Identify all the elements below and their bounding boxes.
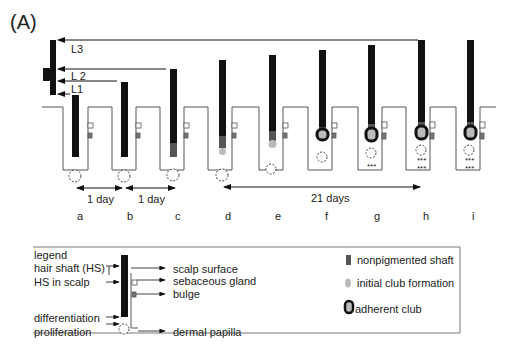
dermal-papillae [69, 145, 474, 182]
stage-label-e: e [275, 210, 281, 222]
key-adherent-club: adherent club [355, 303, 422, 315]
svg-text:***: *** [417, 164, 426, 173]
interval-label: 1 day [87, 193, 114, 205]
stage-label-a: a [77, 210, 83, 222]
legend-left-label: proliferation [34, 326, 91, 338]
interval-label: 1 day [138, 193, 165, 205]
stage-label-f: f [325, 210, 328, 222]
legend-left-label: differentiation [34, 312, 100, 324]
svg-text:***: *** [465, 164, 474, 173]
legend-right-label: dermal papilla [173, 326, 241, 338]
legend-left-label: hair shaft (HS) [34, 262, 105, 274]
svg-text:***: *** [367, 162, 376, 171]
marker-L1: L1 [71, 83, 83, 95]
legend-title: legend [34, 249, 67, 261]
stage-label-h: h [423, 210, 429, 222]
length-arrows [58, 40, 418, 94]
interval-arrows [77, 187, 420, 188]
legend-right-label: bulge [173, 288, 200, 300]
marker-L2: L 2 [71, 70, 86, 82]
legend-left-label: HS in scalp [34, 276, 90, 288]
adherent-clubs [317, 126, 476, 141]
legend-right-label: sebaceous gland [173, 275, 256, 287]
stage-label-i: i [472, 210, 474, 222]
stage-label-d: d [225, 210, 231, 222]
stage-label-g: g [374, 210, 380, 222]
stage-label-b: b [127, 210, 133, 222]
legend-right-label: scalp surface [173, 263, 238, 275]
interval-label: 21 days [311, 192, 350, 204]
length-scale-bar [43, 40, 56, 95]
key-initial-club-formation: initial club formation [357, 277, 454, 289]
marker-L3: L3 [71, 43, 83, 55]
key-nonpigmented-shaft: nonpigmented shaft [357, 254, 454, 266]
hair-shafts [72, 40, 474, 157]
stage-label-c: c [175, 210, 181, 222]
